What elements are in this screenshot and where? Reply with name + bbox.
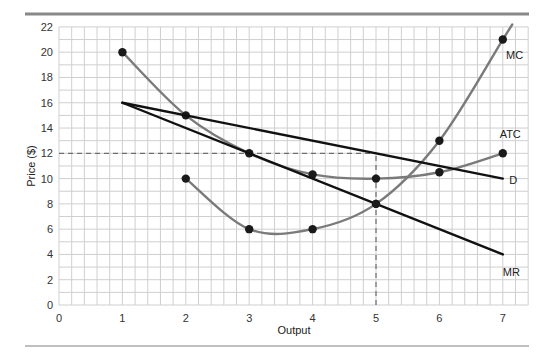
x-tick: 0 <box>56 312 62 324</box>
y-tick: 12 <box>41 147 53 159</box>
y-tick: 14 <box>41 122 53 134</box>
data-point <box>308 225 316 233</box>
curve-label-d: D <box>509 174 517 186</box>
x-tick: 6 <box>436 312 442 324</box>
curve-mc <box>186 24 513 234</box>
y-tick: 22 <box>41 21 53 33</box>
series-mr: MR <box>122 103 520 278</box>
data-point <box>499 149 507 157</box>
data-point <box>435 168 443 176</box>
y-tick: 0 <box>47 299 53 311</box>
data-point <box>372 174 380 182</box>
x-tick: 1 <box>119 312 125 324</box>
y-tick: 4 <box>47 248 53 260</box>
y-tick: 2 <box>47 274 53 286</box>
x-tick: 2 <box>183 312 189 324</box>
curve-label-mc: MC <box>506 49 523 61</box>
mr-mc-intersection-point <box>372 200 380 208</box>
y-axis-label: Price ($) <box>25 145 37 187</box>
x-tick: 4 <box>310 312 316 324</box>
data-point <box>182 174 190 182</box>
curve-label-atc: ATC <box>500 128 521 140</box>
x-tick: 7 <box>500 312 506 324</box>
data-point <box>118 48 126 56</box>
y-tick: 10 <box>41 173 53 185</box>
economics-chart: 012345670246810121416182022 Output Price… <box>0 0 552 360</box>
y-tick: 6 <box>47 223 53 235</box>
data-point <box>245 225 253 233</box>
series: MCATCDMR <box>118 24 523 278</box>
y-tick: 18 <box>41 71 53 83</box>
curve-label-mr: MR <box>503 266 520 278</box>
grid <box>59 27 528 305</box>
x-axis-label: Output <box>277 324 310 336</box>
data-point <box>435 136 443 144</box>
x-tick: 3 <box>246 312 252 324</box>
x-tick: 5 <box>373 312 379 324</box>
y-tick: 20 <box>41 46 53 58</box>
y-tick: 16 <box>41 97 53 109</box>
series-mc: MC <box>182 24 524 234</box>
y-tick: 8 <box>47 198 53 210</box>
data-point <box>499 35 507 43</box>
